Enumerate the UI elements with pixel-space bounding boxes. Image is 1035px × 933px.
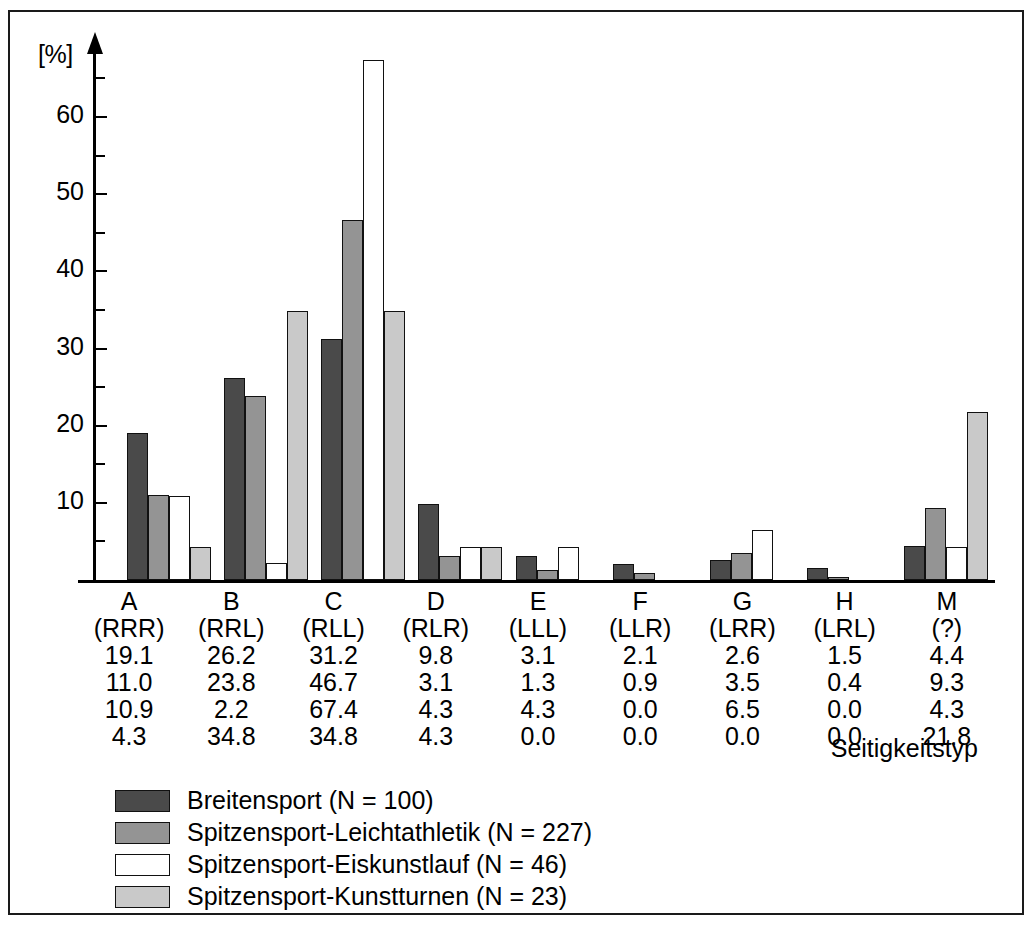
- table-row-series1: 11.023.846.73.11.30.93.50.49.3: [78, 669, 998, 696]
- chart-plot-area: [%] 102030405060: [10, 12, 1026, 917]
- table-code-row-cell-7: (LRL): [794, 615, 896, 642]
- table-row-series0-cell-8: 4.4: [896, 642, 998, 669]
- table-header-row-cell-7: H: [794, 588, 896, 615]
- table-row-series2-cell-0: 10.9: [78, 696, 180, 723]
- bar-B-series1: [245, 396, 266, 580]
- bar-F-series1: [634, 573, 655, 580]
- legend-item-1[interactable]: Spitzensport-Leichtathletik (N = 227): [115, 817, 592, 848]
- legend-swatch-0: [115, 790, 170, 812]
- bar-D-series0: [418, 504, 439, 580]
- table-header-row-cell-4: E: [487, 588, 589, 615]
- legend-label-2: Spitzensport-Eiskunstlauf (N = 46): [187, 850, 567, 879]
- bar-B-series3: [287, 311, 308, 580]
- table-header-row-cell-1: B: [180, 588, 282, 615]
- table-row-series2-cell-7: 0.0: [794, 696, 896, 723]
- bar-E-series1: [537, 570, 558, 580]
- table-row-series1-cell-8: 9.3: [896, 669, 998, 696]
- bar-E-series2: [558, 547, 579, 580]
- bar-B-series2: [266, 563, 287, 580]
- table-row-series2: 10.92.267.44.34.30.06.50.04.3: [78, 696, 998, 723]
- table-code-row-cell-1: (RRL): [180, 615, 282, 642]
- table-row-series2-cell-8: 4.3: [896, 696, 998, 723]
- table-row-series0-cell-6: 2.6: [691, 642, 793, 669]
- bar-A-series0: [127, 433, 148, 580]
- bar-C-series3: [384, 311, 405, 580]
- table-row-series1-cell-4: 1.3: [487, 669, 589, 696]
- table-row-series1-cell-0: 11.0: [78, 669, 180, 696]
- bars-layer: [10, 12, 1026, 583]
- table-code-row-cell-2: (RLL): [282, 615, 384, 642]
- table-row-series1-cell-3: 3.1: [385, 669, 487, 696]
- bar-E-series0: [516, 556, 537, 580]
- table-header-row-cell-0: A: [78, 588, 180, 615]
- legend-label-3: Spitzensport-Kunstturnen (N = 23): [187, 882, 567, 911]
- table-row-series3-cell-6: 0.0: [691, 723, 793, 750]
- table-row-series0-cell-1: 26.2: [180, 642, 282, 669]
- table-row-series3-cell-0: 4.3: [78, 723, 180, 750]
- legend-item-3[interactable]: Spitzensport-Kunstturnen (N = 23): [115, 881, 592, 912]
- table-row-series3-cell-3: 4.3: [385, 723, 487, 750]
- table-row-series3-cell-4: 0.0: [487, 723, 589, 750]
- legend-swatch-2: [115, 854, 170, 876]
- bar-M-series0: [904, 546, 925, 580]
- legend-swatch-3: [115, 886, 170, 908]
- table-row-series1-cell-6: 3.5: [691, 669, 793, 696]
- bar-M-series2: [946, 547, 967, 580]
- legend-label-1: Spitzensport-Leichtathletik (N = 227): [187, 818, 592, 847]
- bar-B-series0: [224, 378, 245, 580]
- bar-D-series2: [460, 547, 481, 580]
- table-row-series1-cell-2: 46.7: [282, 669, 384, 696]
- table-header-row-cell-5: F: [589, 588, 691, 615]
- table-row-series2-cell-5: 0.0: [589, 696, 691, 723]
- table-row-series1-cell-7: 0.4: [794, 669, 896, 696]
- table-row-series2-cell-4: 4.3: [487, 696, 589, 723]
- table-row-series1-cell-5: 0.9: [589, 669, 691, 696]
- table-row-series1-cell-1: 23.8: [180, 669, 282, 696]
- bar-A-series3: [190, 547, 211, 580]
- table-row-series0-cell-0: 19.1: [78, 642, 180, 669]
- bar-A-series1: [148, 495, 169, 580]
- data-table: ABCDEFGHM(RRR)(RRL)(RLL)(RLR)(LLL)(LLR)(…: [78, 588, 998, 750]
- table-row-series3-cell-1: 34.8: [180, 723, 282, 750]
- table-row-series2-cell-2: 67.4: [282, 696, 384, 723]
- legend-swatch-1: [115, 822, 170, 844]
- legend-item-0[interactable]: Breitensport (N = 100): [115, 785, 592, 816]
- x-axis-title: Seitigkeitstyp: [831, 734, 978, 763]
- chart-legend: Breitensport (N = 100)Spitzensport-Leich…: [115, 785, 592, 913]
- table-row-series2-cell-3: 4.3: [385, 696, 487, 723]
- table-row-series0: 19.126.231.29.83.12.12.61.54.4: [78, 642, 998, 669]
- bar-M-series1: [925, 508, 946, 580]
- table-code-row-cell-3: (RLR): [385, 615, 487, 642]
- table-code-row-cell-0: (RRR): [78, 615, 180, 642]
- bar-G-series0: [710, 560, 731, 580]
- table-row-series2-cell-6: 6.5: [691, 696, 793, 723]
- bar-H-series1: [828, 577, 849, 580]
- table-code-row-cell-5: (LLR): [589, 615, 691, 642]
- table-row-series0-cell-5: 2.1: [589, 642, 691, 669]
- table-row-series0-cell-3: 9.8: [385, 642, 487, 669]
- table-header-row-cell-6: G: [691, 588, 793, 615]
- bar-C-series2: [363, 60, 384, 580]
- figure-frame: [%] 102030405060 ABCDEFGHM(RRR)(RRL)(RLL…: [8, 10, 1024, 915]
- table-row-series3-cell-5: 0.0: [589, 723, 691, 750]
- table-row-series0-cell-4: 3.1: [487, 642, 589, 669]
- table-header-row: ABCDEFGHM: [78, 588, 998, 615]
- bar-A-series2: [169, 496, 190, 580]
- table-header-row-cell-3: D: [385, 588, 487, 615]
- bar-H-series0: [807, 568, 828, 580]
- bar-F-series0: [613, 564, 634, 580]
- bar-G-series1: [731, 553, 752, 580]
- figure-caption: [10, 921, 1020, 933]
- table-code-row-cell-4: (LLL): [487, 615, 589, 642]
- table-header-row-cell-8: M: [896, 588, 998, 615]
- table-row-series0-cell-7: 1.5: [794, 642, 896, 669]
- bar-C-series0: [321, 339, 342, 580]
- bar-G-series2: [752, 530, 773, 580]
- table-row-series3-cell-2: 34.8: [282, 723, 384, 750]
- table-header-row-cell-2: C: [282, 588, 384, 615]
- bar-D-series3: [481, 547, 502, 580]
- table-code-row-cell-8: (?): [896, 615, 998, 642]
- table-code-row-cell-6: (LRR): [691, 615, 793, 642]
- legend-item-2[interactable]: Spitzensport-Eiskunstlauf (N = 46): [115, 849, 592, 880]
- table-row-series2-cell-1: 2.2: [180, 696, 282, 723]
